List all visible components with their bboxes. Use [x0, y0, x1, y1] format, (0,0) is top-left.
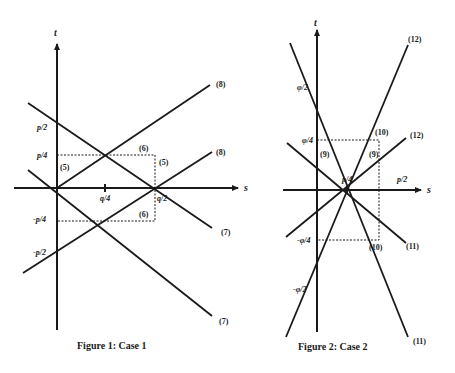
line-7-lower — [28, 170, 212, 316]
tick-label-phi2: φ/2 — [297, 83, 308, 92]
label-5-right: (5) — [159, 158, 169, 167]
label-12-lower: (12) — [410, 131, 424, 140]
figure-2: t s φ/2 φ/4 -φ/4 -φ/2 p/4 p/2 (12) (12) … — [283, 17, 431, 352]
label-7-lower: (7) — [219, 317, 229, 326]
label-11-upper: (11) — [406, 242, 419, 251]
s-axis-label: s — [243, 182, 248, 193]
tick-label-p2: p/2 — [396, 175, 407, 184]
tick-label-p4: p/4 — [36, 151, 47, 160]
figure-1-caption: Figure 1: Case 1 — [77, 340, 147, 351]
label-8-upper: (8) — [216, 80, 226, 89]
tick-label-phi4: φ/4 — [302, 136, 313, 145]
figure-2-caption: Figure 2: Case 2 — [298, 341, 368, 352]
label-11-lower: (11) — [413, 337, 426, 346]
tick-label-q2: q/2 — [157, 194, 167, 203]
figure-1: t s p/2 p/4 -p/4 -p/2 q/4 q/2 (8) (8) (7… — [14, 27, 248, 351]
line-8-upper — [57, 85, 210, 188]
label-9-left: (9) — [320, 150, 330, 159]
line-8-lower — [23, 152, 212, 273]
label-12-upper: (12) — [408, 35, 422, 44]
tick-label-p2: p/2 — [36, 123, 47, 132]
label-9-right: (9) — [369, 150, 379, 159]
tick-label-neg-p2: -p/2 — [33, 248, 46, 257]
t-axis-label: t — [54, 27, 58, 38]
label-7-upper: (7) — [221, 228, 231, 237]
label-5-left: (5) — [60, 163, 70, 172]
label-10-upper: (10) — [375, 128, 389, 137]
diagram-canvas: t s p/2 p/4 -p/4 -p/2 q/4 q/2 (8) (8) (7… — [0, 0, 455, 373]
label-6-upper: (6) — [139, 144, 149, 153]
label-10-lower: (10) — [369, 243, 383, 252]
tick-label-neg-phi4: -φ/4 — [297, 236, 311, 245]
tick-label-q4: q/4 — [100, 194, 110, 203]
tick-label-p4: p/4 — [341, 175, 352, 184]
line-7-upper — [28, 103, 212, 228]
s-axis-label: s — [426, 184, 431, 195]
label-8-lower: (8) — [216, 148, 226, 157]
tick-label-neg-phi2: -φ/2 — [293, 285, 307, 294]
label-6-lower: (6) — [139, 210, 149, 219]
t-axis-label: t — [314, 17, 318, 28]
tick-label-neg-p4: -p/4 — [33, 215, 46, 224]
